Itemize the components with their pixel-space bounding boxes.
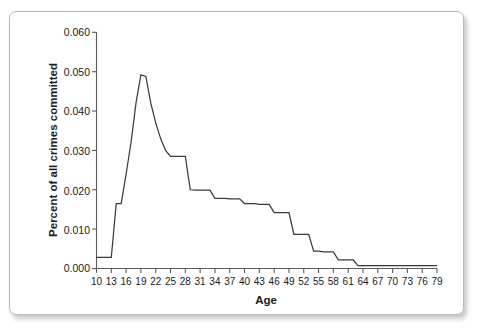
y-axis-title: Percent of all crimes committed	[47, 63, 59, 237]
chart-plot-area: Percent of all crimes committed 0.060 0.…	[0, 0, 484, 333]
x-tick-marks	[97, 269, 438, 274]
y-tick-label: 0.010	[64, 224, 90, 236]
x-tick-label: 79	[431, 276, 443, 287]
x-tick-label: 31	[195, 276, 207, 287]
x-tick-label: 49	[283, 276, 295, 287]
crime-by-age-line-chart: Percent of all crimes committed 0.060 0.…	[0, 0, 484, 333]
x-tick-label: 28	[180, 276, 192, 287]
x-tick-label: 22	[150, 276, 162, 287]
x-tick-labels: 1013161922252831343740434649525558616467…	[91, 276, 443, 287]
y-tick-label: 0.000	[64, 262, 90, 274]
y-tick-labels: 0.060 0.050 0.040 0.030 0.020 0.010 0.00…	[64, 26, 90, 274]
y-tick-marks	[92, 32, 97, 268]
y-tick-label: 0.040	[64, 105, 90, 117]
x-tick-label: 25	[165, 276, 177, 287]
x-tick-label: 70	[387, 276, 399, 287]
x-tick-label: 52	[298, 276, 310, 287]
x-tick-label: 55	[313, 276, 325, 287]
x-tick-label: 73	[402, 276, 414, 287]
y-tick-label: 0.060	[64, 26, 90, 38]
x-tick-label: 10	[91, 276, 103, 287]
x-tick-label: 43	[254, 276, 266, 287]
x-tick-label: 40	[239, 276, 251, 287]
x-axis-title: Age	[255, 294, 277, 306]
x-tick-label: 19	[135, 276, 147, 287]
x-tick-label: 37	[224, 276, 236, 287]
x-tick-label: 46	[269, 276, 281, 287]
y-tick-label: 0.030	[64, 145, 90, 157]
x-tick-label: 58	[328, 276, 340, 287]
x-tick-label: 61	[343, 276, 355, 287]
x-tick-label: 76	[417, 276, 429, 287]
y-tick-label: 0.050	[64, 66, 90, 78]
x-tick-label: 67	[372, 276, 384, 287]
x-tick-label: 64	[357, 276, 369, 287]
x-tick-label: 13	[106, 276, 118, 287]
x-tick-label: 16	[121, 276, 133, 287]
x-tick-label: 34	[209, 276, 221, 287]
figure-root: Percent of all crimes committed 0.060 0.…	[0, 0, 484, 333]
data-series-line	[97, 75, 438, 266]
y-tick-label: 0.020	[64, 185, 90, 197]
